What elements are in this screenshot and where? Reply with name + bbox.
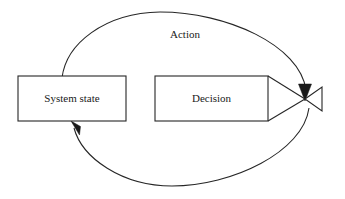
feedback-loop-diagram: Action System state Decision [0,0,345,199]
node-decision[interactable]: Decision [155,76,268,121]
diagram-canvas: Action System state Decision [0,0,345,199]
node-system-state[interactable]: System state [18,76,126,121]
decision-to-junction-connector [268,76,305,121]
connector-line-upper [268,76,305,99]
action-edge-label: Action [170,28,200,40]
system-state-label: System state [44,92,99,104]
connector-line-lower [268,99,305,121]
decision-label: Decision [192,92,232,104]
